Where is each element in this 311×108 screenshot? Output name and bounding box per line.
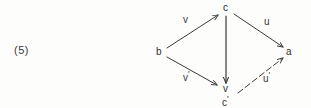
edge-label-u: u bbox=[264, 17, 270, 27]
edge-label-v: v bbox=[183, 15, 188, 25]
edge-label-v-prime-mark: ' bbox=[188, 69, 190, 79]
node-label-c: c bbox=[223, 3, 228, 13]
edge-label-v-prime: v' bbox=[183, 70, 190, 83]
edge-label-u-text: u bbox=[264, 16, 270, 27]
edge-label-v-text: v bbox=[183, 14, 188, 25]
edge-label-u-prime-mark: ' bbox=[269, 70, 271, 80]
node-a-text: a bbox=[286, 46, 292, 57]
node-label-v: v bbox=[223, 84, 228, 94]
node-b-text: b bbox=[156, 46, 162, 57]
edge-b-to-v bbox=[167, 57, 217, 85]
node-v-text: v bbox=[223, 83, 228, 94]
node-c-prime-mark: ' bbox=[227, 94, 229, 104]
edge-label-u-prime: u' bbox=[263, 71, 270, 84]
edge-b-to-c bbox=[167, 15, 218, 48]
node-label-c-prime: c' bbox=[222, 95, 229, 108]
node-c-text: c bbox=[223, 2, 228, 13]
node-label-a: a bbox=[286, 47, 292, 57]
edge-c-to-a bbox=[234, 14, 283, 47]
edge-cprime-to-a bbox=[238, 58, 283, 93]
figure-canvas: (5) c b a v c' v u bbox=[0, 0, 311, 108]
node-label-b: b bbox=[156, 47, 162, 57]
